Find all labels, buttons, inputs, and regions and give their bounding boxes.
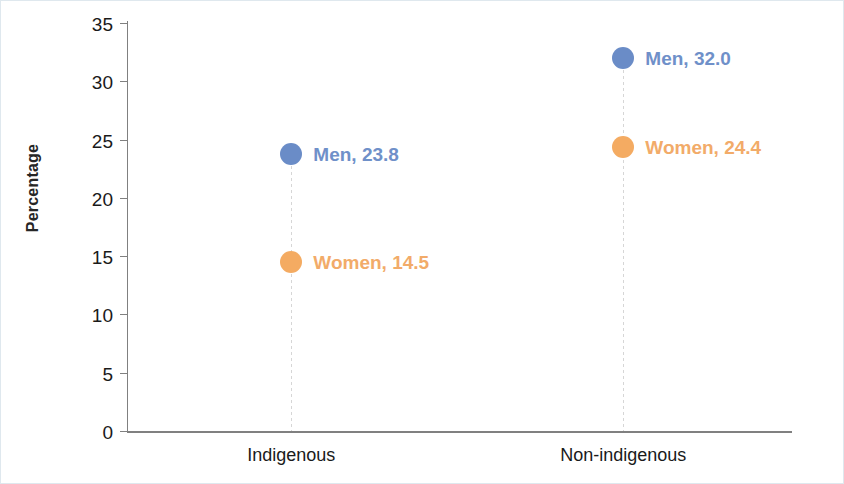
y-axis-tick-label: 20 (67, 188, 113, 208)
y-axis-tick-label: 35 (67, 13, 113, 33)
y-axis-tick-mark (120, 198, 127, 199)
y-axis-tick-label: 5 (67, 363, 113, 383)
y-axis-tick-label-text: 30 (73, 73, 113, 92)
y-axis-title: Percentage (24, 128, 42, 248)
data-point-marker-men[interactable] (280, 143, 302, 165)
y-axis-tick-label: 30 (67, 71, 113, 91)
y-axis-tick-mark (120, 314, 127, 315)
y-axis-tick-label-text: 10 (73, 306, 113, 325)
dropline (623, 58, 624, 431)
y-axis-tick-label: 10 (67, 304, 113, 324)
y-axis-tick-mark (120, 431, 127, 432)
y-axis-tick-mark (120, 81, 127, 82)
dropline (291, 154, 292, 431)
data-point-marker-women[interactable] (280, 251, 302, 273)
y-axis-tick-label-text: 15 (73, 248, 113, 267)
data-point-label-women: Women, 24.4 (645, 138, 761, 157)
chart-frame: Percentage 05101520253035 Men, 23.8Women… (0, 0, 844, 484)
x-axis-category-label: Non-indigenous (457, 445, 789, 466)
x-axis-category-label: Indigenous (125, 445, 457, 466)
y-axis-tick-label: 25 (67, 130, 113, 150)
y-axis-tick-mark (120, 23, 127, 24)
data-point-marker-men[interactable] (612, 47, 634, 69)
y-axis-tick-mark (120, 140, 127, 141)
y-axis-tick-label: 0 (67, 421, 113, 441)
y-axis-tick-label-text: 35 (73, 15, 113, 34)
x-axis-line (127, 431, 792, 433)
y-axis-tick-mark (120, 373, 127, 374)
y-axis-line (127, 21, 128, 433)
data-point-label-men: Men, 32.0 (645, 49, 731, 68)
data-point-label-women: Women, 14.5 (313, 253, 429, 272)
y-axis-tick-label-text: 5 (73, 365, 113, 384)
y-axis-tick-mark (120, 256, 127, 257)
y-axis-tick-label-text: 25 (73, 132, 113, 151)
data-point-marker-women[interactable] (612, 136, 634, 158)
y-axis-tick-label-text: 0 (73, 423, 113, 442)
y-axis-tick-label: 15 (67, 246, 113, 266)
y-axis-tick-label-text: 20 (73, 190, 113, 209)
data-point-label-men: Men, 23.8 (313, 145, 399, 164)
